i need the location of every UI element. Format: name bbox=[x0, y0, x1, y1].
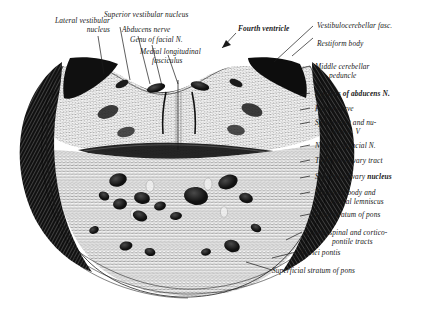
label-fourth-ventricle: Fourth ventricle bbox=[238, 24, 290, 33]
label-medial-longitudinal-fasciculus: Medial longitudinal fasciculus bbox=[140, 47, 201, 65]
label-deep-stratum-of-pons: Deep stratum of pons bbox=[315, 210, 380, 219]
label-corticospinal-and-corticopontile-tracts: Corticospinal and cortico- pontile tract… bbox=[306, 228, 387, 246]
label-spinal-tract-and-nucleus-v: Spinal tract and nu- cleus N. V bbox=[315, 118, 376, 136]
label-superior-olivary-nucleus: Superior olivary nucleus bbox=[315, 172, 392, 181]
label-genu-of-facial-n: Genu of facial N. bbox=[130, 35, 183, 44]
label-thalamo-olivary-tract: Thalamo-olivary tract bbox=[315, 156, 383, 165]
anatomical-plate: Lateral vestibular nucleus Superior vest… bbox=[0, 0, 424, 319]
label-nuclei-pontis: Nuclei pontis bbox=[300, 248, 341, 257]
label-restiform-body: Restiform body bbox=[317, 39, 363, 48]
label-nucleus-of-abducens-n: Nucleus of abducens N. bbox=[315, 89, 390, 98]
label-vestibulocerebellar-fasc: Vestibulocerebellar fasc. bbox=[317, 21, 392, 30]
label-middle-cerebellar-peduncle: Middle cerebellar peduncle bbox=[315, 62, 370, 80]
label-trapezoid-body-and-medial-lemniscus: Trapezoid body and medial lemniscus bbox=[315, 188, 384, 206]
label-superficial-stratum-of-pons: Superficial stratum of pons bbox=[272, 266, 355, 275]
label-lateral-vestibular-nucleus: Lateral vestibular nucleus bbox=[18, 16, 110, 34]
label-facial-nerve: Facial nerve bbox=[315, 104, 354, 113]
basis-pontis bbox=[40, 140, 340, 305]
label-abducens-nerve: Abducens nerve bbox=[122, 25, 170, 34]
label-nucleus-of-facial-n: Nucleus of facial N. bbox=[315, 141, 376, 150]
label-superior-vestibular-nucleus: Superior vestibular nucleus bbox=[104, 10, 188, 19]
